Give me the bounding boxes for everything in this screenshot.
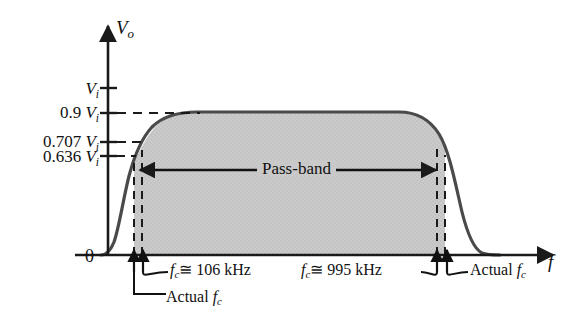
passband-label: Pass-band [257, 160, 336, 177]
y-axis-label: Vo [116, 18, 134, 41]
y-axis-label-subscript: o [128, 26, 134, 41]
symbol-v: V [85, 79, 95, 98]
origin-label: 0 [85, 247, 94, 265]
symbol-f-subscript: c [217, 295, 222, 307]
leader-fc-right [421, 272, 437, 275]
leader-actual-right [447, 272, 468, 275]
symbol-v-subscript: i [96, 112, 99, 125]
lower-cutoff-label: fc≅ 106 kHz [170, 262, 251, 280]
symbol-v: V [85, 147, 95, 166]
x-axis-label: f [548, 252, 553, 271]
leader-actual-left [134, 272, 166, 294]
y-tick-label-0p636-vi: 0.636 Vi [43, 148, 99, 168]
lower-cutoff-actual-label: Actual fc [166, 289, 222, 307]
y-tick-label-vi: Vi [85, 80, 99, 100]
y-tick-label-0p9-vi: 0.9 Vi [60, 104, 99, 124]
upper-cutoff-label: fc≅ 995 kHz [301, 262, 382, 280]
symbol-v: V [85, 103, 95, 122]
symbol-v-subscript: i [96, 156, 99, 169]
leader-fc-left [143, 272, 168, 275]
symbol-v-subscript: i [96, 88, 99, 101]
upper-cutoff-actual-label: Actual fc [470, 262, 526, 280]
passband-shaded-region [134, 112, 445, 255]
symbol-f-subscript: c [521, 268, 526, 280]
